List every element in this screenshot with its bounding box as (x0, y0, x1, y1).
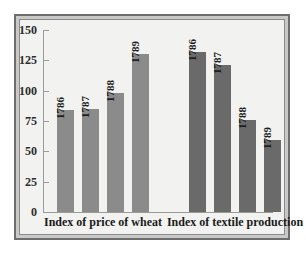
category-label: Index of textile production (167, 216, 303, 228)
bar: 1787 (214, 65, 231, 212)
bar: 1787 (82, 109, 99, 212)
bar-value-label: 1789 (130, 41, 141, 63)
y-tick-label: 25 (25, 176, 37, 188)
y-tick-mark (44, 60, 49, 61)
bar-value-label: 1788 (105, 80, 116, 102)
category-label: Index of price of wheat (44, 216, 162, 228)
bar-value-label: 1786 (187, 39, 198, 61)
bar-value-label: 1786 (55, 97, 66, 119)
y-tick-label: 125 (19, 54, 37, 66)
y-tick-label: 0 (31, 206, 37, 218)
bar: 1788 (107, 93, 124, 212)
y-tick-label: 50 (25, 145, 37, 157)
chart-figure: 0255075100125150 17861787178817891786178… (0, 0, 306, 259)
bar-value-label: 1787 (80, 96, 91, 118)
plot-area: 0255075100125150 17861787178817891786178… (43, 30, 273, 212)
bar-value-label: 1788 (237, 107, 248, 129)
y-tick-mark (44, 91, 49, 92)
bar: 1786 (57, 110, 74, 212)
bar: 1788 (239, 120, 256, 212)
bar-value-label: 1789 (262, 127, 273, 149)
x-axis-line (43, 212, 273, 213)
y-tick-label: 100 (19, 85, 37, 97)
y-tick-label: 150 (19, 24, 37, 36)
bar-value-label: 1787 (212, 52, 223, 74)
y-tick-mark (44, 151, 49, 152)
y-tick-mark (44, 182, 49, 183)
y-tick-mark (44, 212, 49, 213)
bar: 1789 (132, 54, 149, 212)
y-tick-mark (44, 121, 49, 122)
bar: 1786 (189, 52, 206, 212)
y-tick-label: 75 (25, 115, 37, 127)
bar: 1789 (264, 140, 281, 212)
y-tick-mark (44, 30, 49, 31)
